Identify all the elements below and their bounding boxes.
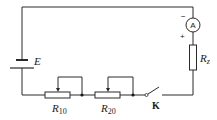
rheostat-r10: R10 [45, 77, 84, 116]
switch-lever [148, 87, 159, 94]
rheostat-r10-body [45, 92, 70, 98]
battery-label: E [33, 55, 41, 67]
rheostat-r20-body [95, 92, 120, 98]
junction-dot-2 [131, 93, 134, 96]
rheostat-r20-label-sub: 20 [108, 107, 116, 116]
junction-dot-1 [80, 93, 83, 96]
rheostat-r20-wiper-arrow-icon [106, 88, 110, 92]
resistor-rz: Rz [190, 45, 211, 70]
rheostat-r20-label: R20 [100, 102, 116, 116]
ammeter: A − + [180, 12, 200, 41]
rheostat-r10-wiper-arrow-icon [56, 88, 60, 92]
resistor-rz-body [190, 45, 197, 70]
ammeter-plus-sign: + [180, 32, 185, 41]
resistor-rz-label: Rz [199, 52, 211, 66]
switch-label: K [152, 100, 160, 111]
ammeter-symbol: A [190, 21, 196, 30]
rheostat-r20: R20 [95, 77, 135, 116]
rheostat-r10-label-sub: 10 [59, 107, 67, 116]
rheostat-r10-label: R10 [51, 102, 67, 116]
resistor-rz-label-sub: z [206, 57, 211, 66]
circuit-diagram: E R10 R20 K A − + Rz [0, 0, 217, 120]
switch-k: K [145, 87, 160, 111]
ammeter-minus-sign: − [181, 12, 186, 21]
battery: E [10, 55, 41, 68]
switch-pivot [145, 94, 148, 97]
